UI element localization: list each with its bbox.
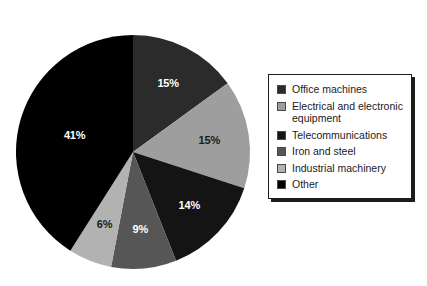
pie-slice-value-label: 9% [133,223,149,235]
legend-swatch-office-machines [277,85,286,94]
legend-label: Office machines [292,83,367,96]
pie-slice-value-label: 6% [97,218,113,230]
legend-swatch-electrical-and-electronic-equipment [277,102,286,111]
legend-item[interactable]: Telecommunications [277,129,404,142]
legend-label: Other [292,178,318,191]
pie-slice-value-label: 15% [157,77,179,89]
legend-label: Iron and steel [292,145,356,158]
legend-item[interactable]: Electrical and electronic equipment [277,100,404,125]
legend-swatch-iron-and-steel [277,147,286,156]
legend-label: Telecommunications [292,129,387,142]
chart-legend: Office machines Electrical and electroni… [268,74,412,199]
legend-item[interactable]: Other [277,178,404,191]
legend-swatch-telecommunications [277,131,286,140]
legend-label: Industrial machinery [292,162,386,175]
pie-slice-value-label: 15% [199,134,221,146]
pie-slice-value-label: 41% [64,129,86,141]
pie-slice-value-label: 14% [179,199,201,211]
legend-item[interactable]: Office machines [277,83,404,96]
legend-swatch-other [277,180,286,189]
legend-item[interactable]: Iron and steel [277,145,404,158]
legend-label: Electrical and electronic equipment [292,100,403,125]
legend-swatch-industrial-machinery [277,164,286,173]
legend-item[interactable]: Industrial machinery [277,162,404,175]
